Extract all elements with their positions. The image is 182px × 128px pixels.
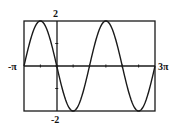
sine-graph: 2 -2 -π 3π — [0, 0, 182, 128]
x-min-label: -π — [8, 61, 17, 72]
y-min-label: -2 — [51, 114, 59, 125]
x-max-label: 3π — [158, 61, 169, 72]
y-max-label: 2 — [53, 8, 58, 19]
